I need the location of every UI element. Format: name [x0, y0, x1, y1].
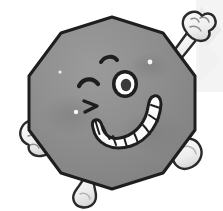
body-highlight-dot: [58, 70, 61, 73]
open-eye: [112, 70, 138, 98]
decagon-body: [29, 17, 195, 189]
decagon-character-illustration: [0, 0, 223, 211]
body-highlight-dot: [74, 110, 78, 114]
body-highlight-dot: [148, 60, 153, 65]
illustration-canvas: Cartoon Decagon Character A smiling gray…: [0, 0, 223, 211]
